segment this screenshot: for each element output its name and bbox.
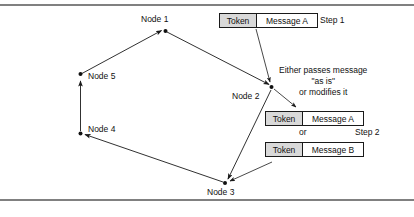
frame-step1-message-cell: Message A bbox=[257, 14, 317, 27]
node-dot-node5 bbox=[79, 72, 83, 76]
frame-step1-token-cell: Token bbox=[220, 14, 257, 27]
annotation-line-2: "as is" bbox=[279, 76, 367, 87]
node-label-node1: Node 1 bbox=[141, 15, 168, 24]
edge-node3-to-node4 bbox=[85, 135, 223, 183]
diagram-figure: Node 1 Node 2 Node 3 Node 4 Node 5 Token… bbox=[0, 0, 414, 217]
node-label-node2: Node 2 bbox=[232, 92, 259, 101]
connector-step1-to-node2 bbox=[256, 29, 270, 82]
node-dot-node2 bbox=[270, 85, 274, 89]
step2-label: Step 2 bbox=[355, 128, 380, 137]
diagram-canvas bbox=[0, 0, 414, 217]
annotation-line-1: Either passes message bbox=[279, 65, 367, 76]
connector-step2b-to-node3 bbox=[230, 162, 272, 181]
frame-step2-option-a: Token Message A bbox=[265, 111, 364, 126]
edge-node1-to-node2 bbox=[167, 32, 269, 85]
edge-node5-to-node1 bbox=[81, 31, 162, 75]
node-dot-node3 bbox=[223, 181, 227, 185]
ring-edges bbox=[81, 31, 272, 183]
or-label: or bbox=[299, 128, 307, 137]
node-label-node5: Node 5 bbox=[88, 72, 115, 81]
frame-step2b-token-cell: Token bbox=[266, 143, 303, 156]
annotation-text: Either passes message "as is" or modifie… bbox=[279, 65, 367, 98]
node-dots bbox=[79, 29, 274, 185]
frame-step2a-token-cell: Token bbox=[266, 112, 303, 125]
frame-step2-option-b: Token Message B bbox=[265, 142, 364, 157]
node-dot-node1 bbox=[164, 29, 168, 33]
node-label-node3: Node 3 bbox=[207, 188, 234, 197]
annotation-line-3: or modifies it bbox=[279, 87, 367, 98]
frame-step2a-message-cell: Message A bbox=[303, 112, 363, 125]
step1-label: Step 1 bbox=[320, 16, 345, 25]
frame-step2b-message-cell: Message B bbox=[303, 143, 363, 156]
node-label-node4: Node 4 bbox=[88, 125, 115, 134]
node-dot-node4 bbox=[79, 132, 83, 136]
frame-step1: Token Message A bbox=[219, 13, 318, 28]
